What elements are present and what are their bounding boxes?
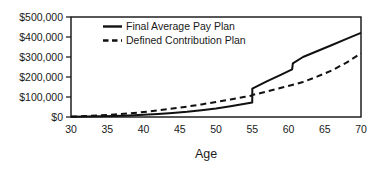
x-tick-label: 70 xyxy=(355,123,367,135)
legend-label-defined-contribution-plan: Defined Contribution Plan xyxy=(126,34,246,46)
x-tick-label: 30 xyxy=(65,123,77,135)
x-tick-label: 35 xyxy=(101,123,113,135)
x-tick-label: 45 xyxy=(174,123,186,135)
x-tick-label: 40 xyxy=(138,123,150,135)
y-tick-label: $100,000 xyxy=(19,91,63,103)
legend-label-final-average-pay-plan: Final Average Pay Plan xyxy=(126,20,235,32)
x-tick-label: 55 xyxy=(246,123,258,135)
x-tick-label: 50 xyxy=(210,123,222,135)
x-axis-title: Age xyxy=(195,147,217,161)
y-tick-label: $500,000 xyxy=(19,11,63,23)
x-axis-tick-labels: 30 35 40 45 50 55 60 65 70 xyxy=(65,123,367,135)
line-chart: $0 $100,000 $200,000 $300,000 $400,000 $… xyxy=(0,0,381,173)
y-tick-label: $300,000 xyxy=(19,51,63,63)
chart-figure: $0 $100,000 $200,000 $300,000 $400,000 $… xyxy=(0,0,381,173)
y-tick-label: $0 xyxy=(51,111,63,123)
x-tick-label: 60 xyxy=(283,123,295,135)
y-tick-label: $200,000 xyxy=(19,71,63,83)
x-tick-label: 65 xyxy=(319,123,331,135)
y-tick-label: $400,000 xyxy=(19,31,63,43)
